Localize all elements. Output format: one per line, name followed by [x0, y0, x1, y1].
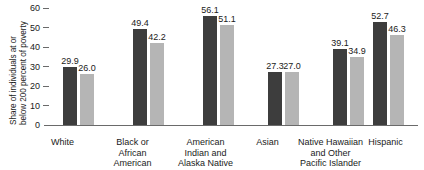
y-tick-mark	[43, 125, 49, 126]
bar-pair: 52.746.3	[373, 8, 404, 125]
bar[interactable]: 39.1	[333, 8, 347, 125]
bar-value-label: 34.9	[348, 46, 366, 56]
bar-value-label: 27.0	[283, 61, 301, 71]
bar[interactable]: 26.0	[80, 8, 94, 125]
bar-chart: Share of individuals at or below 200 per…	[0, 0, 424, 170]
bar[interactable]: 29.9	[63, 8, 77, 125]
bar-fill	[150, 43, 164, 125]
bar-value-label: 52.7	[371, 11, 389, 21]
y-tick-label: 20	[30, 81, 40, 91]
bar-value-label: 26.0	[78, 63, 96, 73]
bar-pair: 39.134.9	[333, 8, 364, 125]
bar[interactable]: 42.2	[150, 8, 164, 125]
bar-value-label: 56.1	[201, 5, 219, 15]
x-category-label: Black or African American	[95, 137, 170, 169]
y-tick-mark	[43, 86, 49, 87]
bar-fill	[350, 57, 364, 125]
x-axis-line	[44, 125, 418, 126]
bar-fill	[203, 16, 217, 125]
bar-fill	[133, 29, 147, 125]
y-tick-label: 60	[30, 3, 40, 13]
bar-fill	[285, 72, 299, 125]
bar[interactable]: 27.0	[285, 8, 299, 125]
y-tick-label: 50	[30, 23, 40, 33]
bar-fill	[373, 22, 387, 125]
bar[interactable]: 52.7	[373, 8, 387, 125]
bar[interactable]: 56.1	[203, 8, 217, 125]
bar-value-label: 46.3	[388, 24, 406, 34]
bar-fill	[80, 74, 94, 125]
bar-pair: 27.327.0	[268, 8, 299, 125]
bar-value-label: 27.3	[266, 61, 284, 71]
bar-fill	[63, 67, 77, 125]
y-tick-mark	[43, 27, 49, 28]
bar-value-label: 51.1	[218, 14, 236, 24]
y-tick-label: 0	[35, 120, 40, 130]
bar-fill	[333, 49, 347, 125]
bar[interactable]: 34.9	[350, 8, 364, 125]
y-axis-label-line-2: below 200 percent of poverty	[19, 21, 29, 125]
bar-value-label: 42.2	[148, 32, 166, 42]
bar-fill	[390, 35, 404, 125]
y-tick-label: 30	[30, 62, 40, 72]
bar-fill	[268, 72, 282, 125]
y-tick-mark	[43, 8, 49, 9]
y-axis-label-line-1: Share of individuals at or	[9, 36, 19, 125]
bar[interactable]: 27.3	[268, 8, 282, 125]
x-category-label: White	[25, 137, 100, 148]
bar-pair: 49.442.2	[133, 8, 164, 125]
y-tick-mark	[43, 47, 49, 48]
y-tick-mark	[43, 66, 49, 67]
bar[interactable]: 51.1	[220, 8, 234, 125]
y-tick-mark	[43, 105, 49, 106]
y-tick-label: 40	[30, 42, 40, 52]
y-tick-label: 10	[30, 101, 40, 111]
bar-value-label: 39.1	[331, 38, 349, 48]
bar-value-label: 29.9	[61, 56, 79, 66]
bar-value-label: 49.4	[131, 18, 149, 28]
y-axis-label: Share of individuals at or below 200 per…	[0, 0, 34, 135]
bar-pair: 56.151.1	[203, 8, 234, 125]
bar[interactable]: 49.4	[133, 8, 147, 125]
bar-pair: 29.926.0	[63, 8, 94, 125]
x-category-label: Hispanic	[343, 137, 424, 148]
bar-fill	[220, 25, 234, 125]
plot-area: 6050403020100 29.926.049.442.256.151.127…	[55, 8, 418, 126]
bar[interactable]: 46.3	[390, 8, 404, 125]
